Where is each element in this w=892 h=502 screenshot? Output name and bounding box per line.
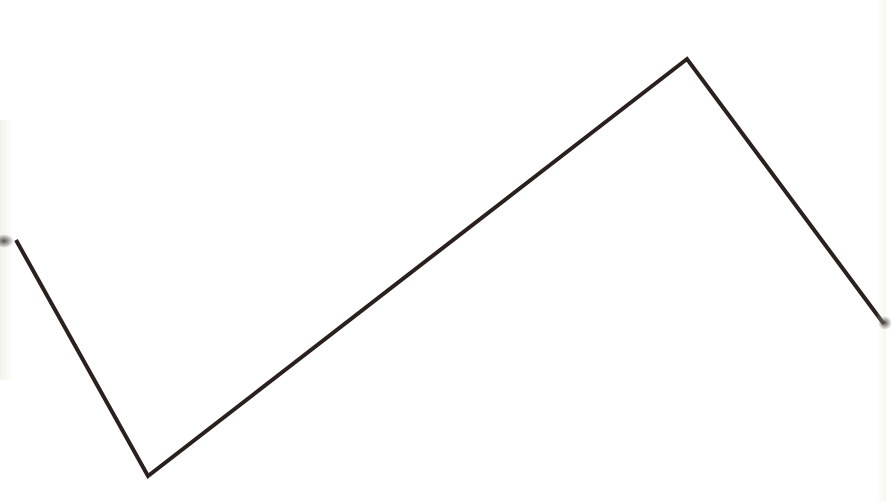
right-edge-shadow xyxy=(876,0,886,502)
right-edge-smudge xyxy=(878,316,892,330)
zigzag-line xyxy=(16,59,884,476)
left-edge-shadow xyxy=(0,120,14,380)
